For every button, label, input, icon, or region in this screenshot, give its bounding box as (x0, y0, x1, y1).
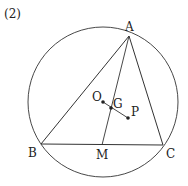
label-p: P (131, 105, 139, 119)
label-o: O (92, 90, 102, 104)
label-m: M (96, 148, 108, 162)
label-c: C (166, 147, 175, 161)
label-a: A (124, 20, 134, 34)
label-g: G (113, 97, 123, 111)
figure-number: (2) (4, 7, 21, 21)
triangle-abc (41, 36, 163, 145)
geometry-diagram: (2) A B C M O G P (0, 0, 188, 186)
label-b: B (28, 146, 37, 160)
side-ca (129, 36, 163, 145)
point-p-dot (126, 116, 130, 120)
